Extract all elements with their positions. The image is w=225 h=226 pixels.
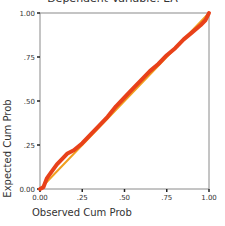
y-tick-label: .75 [24,54,35,62]
x-tick-label: .25 [77,194,88,202]
y-tick-label: .25 [24,142,35,150]
data-series [40,13,209,189]
x-tick-label: 1.00 [201,194,217,202]
x-tick-label: .50 [119,194,130,202]
x-tick-label: .75 [161,194,172,202]
y-tick-label: 0.00 [19,186,35,194]
y-tick-label: 1.00 [19,10,35,18]
y-tick-label: .50 [24,98,35,106]
pp-plot: 0.000.00.25.25.50.50.75.751.001.00 [0,0,225,226]
x-tick-label: 0.00 [32,194,48,202]
